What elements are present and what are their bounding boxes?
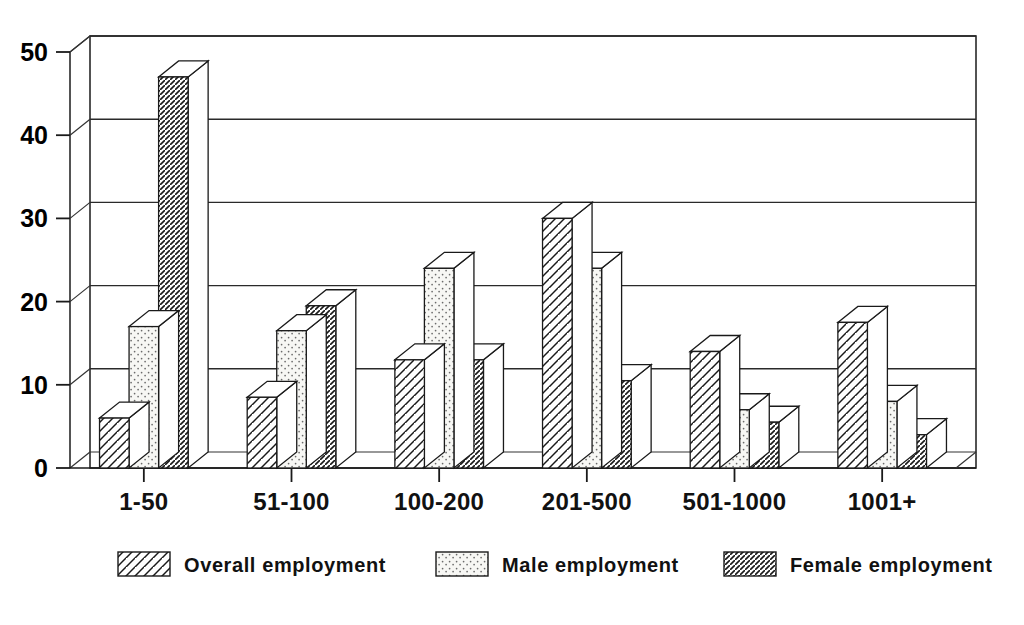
bar-front-face	[543, 218, 573, 468]
bar-side-face	[631, 365, 651, 468]
legend-item: Overall employment	[118, 552, 386, 576]
legend-label: Overall employment	[184, 554, 386, 576]
legend-item: Female employment	[724, 552, 993, 576]
bar-side-face	[572, 202, 592, 468]
x-tick-label: 51-100	[253, 488, 330, 515]
y-tick-label: 50	[20, 38, 48, 66]
legend-item: Male employment	[436, 552, 679, 576]
y-tick-label: 10	[20, 371, 48, 399]
bar-front-face	[690, 352, 720, 468]
bar-side-face	[336, 290, 356, 468]
bar-side-face	[602, 252, 622, 468]
bar-side-face	[424, 344, 444, 468]
bar-front-face	[100, 418, 130, 468]
bar-front-face	[247, 397, 277, 468]
chart-legend: Overall employmentMale employmentFemale …	[118, 552, 993, 576]
legend-label: Male employment	[502, 554, 679, 576]
bar-side-face	[483, 344, 503, 468]
y-tick-label: 40	[20, 121, 48, 149]
bar-side-face	[188, 61, 208, 468]
bar	[543, 202, 593, 468]
bar	[395, 344, 445, 468]
x-tick-label: 501-1000	[683, 488, 787, 515]
y-tick-label: 20	[20, 288, 48, 316]
legend-swatch	[724, 552, 776, 576]
bar-front-face	[395, 360, 425, 468]
bar-side-face	[306, 315, 326, 468]
bar-chart-figure: 01020304050 1-5051-100100-200201-500501-…	[0, 0, 1024, 625]
y-tick-label: 30	[20, 204, 48, 232]
x-tick-label: 100-200	[394, 488, 484, 515]
legend-swatch	[118, 552, 170, 576]
bar	[100, 402, 150, 468]
bar-side-face	[454, 252, 474, 468]
bar-side-face	[720, 336, 740, 468]
x-tick-label: 201-500	[542, 488, 632, 515]
chart-container: 01020304050 1-5051-100100-200201-500501-…	[0, 0, 1024, 625]
x-tick-label: 1001+	[848, 488, 917, 515]
x-tick-label: 1-50	[119, 488, 168, 515]
bar	[247, 381, 297, 468]
bar-side-face	[159, 311, 179, 468]
legend-swatch	[436, 552, 488, 576]
bar-front-face	[838, 322, 868, 468]
y-tick-label: 0	[34, 454, 48, 482]
bar-side-face	[867, 306, 887, 468]
bar	[838, 306, 888, 468]
legend-label: Female employment	[790, 554, 993, 576]
bar	[690, 336, 740, 468]
